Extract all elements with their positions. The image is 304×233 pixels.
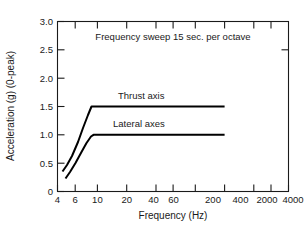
y-tick-label-1-5: 1.5 <box>40 101 53 112</box>
y-axis-title: Acceleration (g) (0-peak) <box>5 51 16 161</box>
y-axis-ticks <box>58 22 65 192</box>
y-tick-label-3-0: 3.0 <box>40 16 53 27</box>
chart-title: Frequency sweep 15 sec. per octave <box>95 31 250 42</box>
chart-figure: 3.0 2.5 2.0 1.5 1.0 0.5 0 <box>0 0 304 233</box>
series-line-thrust-axis <box>63 107 225 172</box>
x-tick-label-10: 10 <box>92 194 103 205</box>
series-label-lateral-axes: Lateral axes <box>113 118 165 129</box>
x-tick-label-6: 6 <box>73 194 78 205</box>
x-axis-tick-labels: 4 6 10 20 40 60 200 400 2000 4000 <box>55 194 304 205</box>
x-tick-label-20: 20 <box>121 194 132 205</box>
acceleration-frequency-chart: 3.0 2.5 2.0 1.5 1.0 0.5 0 <box>0 0 304 233</box>
x-tick-label-4: 4 <box>55 194 60 205</box>
x-axis-title: Frequency (Hz) <box>139 210 208 221</box>
x-tick-label-400: 400 <box>233 194 249 205</box>
y-tick-label-0: 0 <box>48 186 53 197</box>
x-tick-label-4000: 4000 <box>282 194 303 205</box>
x-tick-label-40: 40 <box>148 194 159 205</box>
series-line-lateral-axes <box>66 135 225 179</box>
x-tick-label-200: 200 <box>205 194 221 205</box>
x-tick-label-2000: 2000 <box>256 194 277 205</box>
y-axis-tick-labels: 3.0 2.5 2.0 1.5 1.0 0.5 0 <box>40 16 53 197</box>
y-tick-label-1-0: 1.0 <box>40 129 53 140</box>
x-axis-ticks-top <box>75 22 271 29</box>
y-tick-label-2-0: 2.0 <box>40 73 53 84</box>
y-tick-label-2-5: 2.5 <box>40 44 53 55</box>
x-tick-label-60: 60 <box>168 194 179 205</box>
y-tick-label-0-5: 0.5 <box>40 158 53 169</box>
series-label-thrust-axis: Thrust axis <box>118 90 165 101</box>
x-axis-ticks-bottom <box>58 185 289 192</box>
